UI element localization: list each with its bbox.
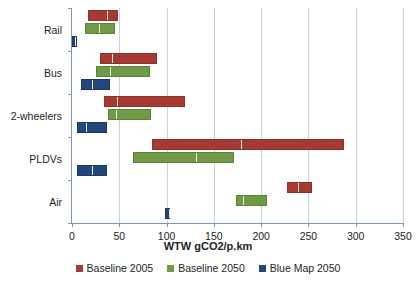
range-bar xyxy=(81,79,109,90)
bar-marker xyxy=(110,67,111,76)
y-axis-tick xyxy=(68,180,72,181)
legend-label: Blue Map 2050 xyxy=(270,262,341,274)
bar-marker xyxy=(116,110,117,119)
legend-swatch-icon xyxy=(167,265,174,272)
range-bar xyxy=(104,96,185,107)
gridline xyxy=(214,8,215,223)
plot-area xyxy=(72,8,403,223)
bar-marker xyxy=(117,97,118,106)
x-axis-tick xyxy=(119,223,120,227)
bar-marker xyxy=(196,153,197,162)
x-axis-title: WTW gCO2/p.km xyxy=(0,240,416,252)
chart-container: RailBus2-wheelersPLDVsAir 05010015020025… xyxy=(0,0,416,288)
bar-marker xyxy=(169,209,170,218)
gridline xyxy=(261,8,262,223)
x-axis-tick xyxy=(167,223,168,227)
y-axis-tick xyxy=(68,137,72,138)
range-bar xyxy=(236,195,267,206)
range-bar xyxy=(108,109,152,120)
range-bar xyxy=(72,36,77,47)
category-label-rail: Rail xyxy=(44,24,62,36)
bar-marker xyxy=(298,183,299,192)
range-bar xyxy=(287,182,313,193)
bar-marker xyxy=(241,140,242,149)
range-bar xyxy=(133,152,233,163)
range-bar xyxy=(96,66,150,77)
range-bar xyxy=(88,10,118,21)
y-axis-tick xyxy=(68,94,72,95)
gridline xyxy=(403,8,404,223)
legend-item-baseline-2050: Baseline 2050 xyxy=(167,262,245,274)
bar-marker xyxy=(92,80,93,89)
range-bar xyxy=(77,165,107,176)
gridline xyxy=(167,8,168,223)
y-axis-tick xyxy=(68,51,72,52)
legend-label: Baseline 2005 xyxy=(87,262,154,274)
range-bar xyxy=(100,53,157,64)
range-bar xyxy=(152,139,344,150)
bar-marker xyxy=(75,37,76,46)
bar-marker xyxy=(112,54,113,63)
x-axis-tick xyxy=(403,223,404,227)
bar-marker xyxy=(86,123,87,132)
x-axis-tick xyxy=(72,223,73,227)
legend-item-blue-map-2050: Blue Map 2050 xyxy=(259,262,341,274)
legend-item-baseline-2005: Baseline 2005 xyxy=(76,262,154,274)
x-axis-tick xyxy=(214,223,215,227)
range-bar xyxy=(77,122,107,133)
bar-marker xyxy=(99,24,100,33)
category-axis-labels: RailBus2-wheelersPLDVsAir xyxy=(0,8,68,223)
bar-marker xyxy=(92,166,93,175)
x-axis-line xyxy=(71,223,404,224)
chart-legend: Baseline 2005 Baseline 2050 Blue Map 205… xyxy=(0,262,416,274)
legend-swatch-icon xyxy=(259,265,266,272)
range-bar xyxy=(165,208,171,219)
category-label-pldvs: PLDVs xyxy=(29,153,62,165)
category-label-2-wheelers: 2-wheelers xyxy=(11,110,62,122)
bar-marker xyxy=(243,196,244,205)
range-bar xyxy=(85,23,114,34)
x-axis-tick xyxy=(308,223,309,227)
legend-label: Baseline 2050 xyxy=(178,262,245,274)
category-label-bus: Bus xyxy=(44,67,62,79)
x-axis-tick xyxy=(261,223,262,227)
gridline xyxy=(356,8,357,223)
legend-swatch-icon xyxy=(76,265,83,272)
bar-marker xyxy=(107,11,108,20)
category-label-air: Air xyxy=(49,196,62,208)
y-axis-tick xyxy=(68,8,72,9)
x-axis-tick xyxy=(356,223,357,227)
